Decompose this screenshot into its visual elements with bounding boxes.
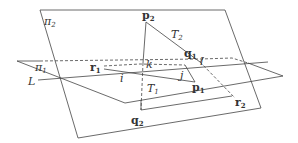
label-p1: p1 [192,82,205,94]
label-q1: q1 [184,48,197,60]
label-T1: T1 [147,83,159,96]
label-pi2: π2 [44,16,56,29]
label-T2: T2 [171,29,183,42]
label-j: j [180,70,183,81]
geometry-figure: π2 π1 L p2 T2 q1 l r1 k i j p1 T1 r2 q2 [0,0,298,143]
label-pi1: π1 [35,62,47,75]
label-i: i [120,73,124,84]
label-l: l [200,56,204,67]
line-L [38,62,268,80]
plane-pi2 [40,10,261,138]
label-p2: p2 [142,10,155,22]
label-r2: r2 [235,97,246,109]
label-r1: r1 [90,62,101,74]
label-k: k [146,59,153,70]
label-q2: q2 [131,115,144,127]
label-L: L [28,76,35,87]
